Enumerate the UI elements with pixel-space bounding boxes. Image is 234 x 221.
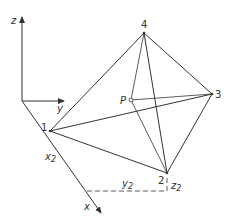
vertex-3-label: 3	[215, 89, 221, 100]
vertex-1-dot	[49, 130, 52, 133]
edge-3-2	[167, 94, 212, 173]
point-p-marker	[129, 98, 133, 102]
x-axis	[22, 101, 101, 213]
vertex-4-label: 4	[141, 19, 147, 30]
x2-label: x2	[44, 151, 56, 164]
x-axis-label: x	[83, 201, 90, 212]
edge-4-2	[144, 33, 167, 173]
edge-p-4	[131, 33, 144, 100]
diagram-canvas: z y x 1 2 3 4	[0, 0, 234, 221]
coordinate-axes: z y x	[10, 15, 101, 213]
vertex-2-label: 2	[158, 175, 164, 186]
vertex-dots	[49, 32, 214, 175]
tetrahedron-diagram: z y x 1 2 3 4	[0, 0, 234, 221]
vertex-1-label: 1	[41, 122, 47, 133]
tetrahedron-edges	[50, 33, 212, 173]
vertex-4-dot	[143, 32, 146, 35]
y2-label: y2	[121, 178, 133, 191]
point-p-label: P	[120, 95, 127, 106]
edge-4-3	[144, 33, 212, 94]
z-axis-label: z	[10, 15, 17, 26]
z2-label: z2	[170, 180, 181, 193]
y-axis-label: y	[56, 103, 64, 114]
vertex-2-dot	[166, 172, 169, 175]
vertex-3-dot	[211, 93, 214, 96]
edge-1-4	[50, 33, 144, 131]
